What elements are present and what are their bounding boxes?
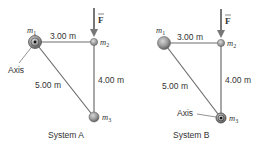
svg-text:m2: m2	[227, 38, 236, 49]
mass-m2	[90, 38, 97, 45]
length-diagonal: 5.00 m	[162, 81, 188, 91]
axis-label: Axis	[177, 108, 193, 118]
mass-m1	[158, 37, 171, 50]
mass-m2	[217, 39, 224, 46]
axis-leader	[197, 114, 216, 117]
force-arrow	[90, 8, 98, 37]
system-a: F m1 m2 m3 3.00 m 4.00 m 5.00 m Axis Sys…	[8, 8, 124, 140]
diagram-canvas: F m1 m2 m3 3.00 m 4.00 m 5.00 m Axis Sys…	[0, 0, 268, 152]
svg-text:m1: m1	[27, 25, 36, 36]
mass-m3-axis	[216, 113, 226, 123]
length-top: 3.00 m	[177, 32, 203, 42]
svg-text:m1: m1	[156, 25, 165, 36]
system-b-caption: System B	[173, 130, 210, 140]
force-label: F	[225, 16, 231, 26]
mass-m3	[89, 112, 99, 122]
length-vertical: 4.00 m	[98, 75, 124, 85]
svg-text:m3: m3	[102, 112, 111, 123]
length-vertical: 4.00 m	[225, 75, 251, 85]
length-top: 3.00 m	[50, 31, 76, 41]
rotational-systems-diagram: F m1 m2 m3 3.00 m 4.00 m 5.00 m Axis Sys…	[0, 0, 268, 152]
mass-m1-axis	[29, 36, 42, 49]
system-b: F m1 m2 m3 3.00 m 4.00 m 5.00 m Axis Sys…	[156, 9, 251, 140]
svg-text:m3: m3	[229, 113, 238, 124]
force-label: F	[98, 15, 104, 25]
axis-dot-icon	[34, 41, 37, 44]
force-arrow	[217, 9, 225, 38]
system-a-caption: System A	[48, 130, 84, 140]
axis-label: Axis	[8, 65, 24, 75]
length-diagonal: 5.00 m	[35, 80, 61, 90]
svg-text:m2: m2	[100, 37, 109, 48]
axis-dot-icon	[220, 117, 223, 120]
